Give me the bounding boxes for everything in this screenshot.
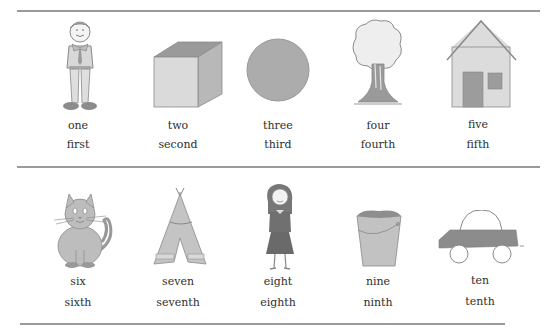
middle-rule [17,166,540,168]
tree-icon [348,18,408,110]
cardinal-label: nine [328,275,428,289]
circle-icon [244,36,312,104]
tepee-icon [150,186,210,270]
house-icon [446,19,518,109]
ordinal-label: sixth [28,296,128,310]
ordinal-label: ninth [328,296,428,310]
ordinal-label: tenth [430,295,530,309]
ordinal-label: first [28,138,128,152]
ordinal-label: second [128,138,228,152]
cardinal-label: seven [128,275,228,289]
ordinal-label: fifth [428,138,528,152]
cardinal-label: four [328,119,428,133]
cardinal-label: one [28,119,128,133]
box-icon [150,38,228,112]
cardinal-label: two [128,119,228,133]
ordinal-label: third [228,138,328,152]
top-rule [17,10,540,12]
girl-icon [262,182,298,272]
cardinal-label: five [428,118,528,132]
bucket-icon [354,210,404,270]
cardinal-label: three [228,119,328,133]
ordinal-label: fourth [328,138,428,152]
car-icon [436,210,524,270]
cardinal-label: six [28,275,128,289]
cat-icon [52,190,122,270]
cardinal-label: eight [228,275,328,289]
cardinal-label: ten [430,274,530,288]
ordinal-label: seventh [128,296,228,310]
boy-icon [50,18,110,113]
ordinal-label: eighth [228,296,328,310]
bottom-rule [20,323,505,325]
